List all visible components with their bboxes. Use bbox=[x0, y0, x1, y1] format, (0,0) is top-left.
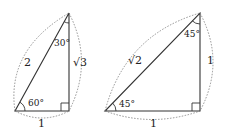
hypotenuse-label: 2 bbox=[24, 56, 31, 69]
height-label: √3 bbox=[73, 56, 87, 69]
base-label: 1 bbox=[38, 117, 45, 130]
angle-top-label: 45° bbox=[184, 29, 200, 39]
height-label: 1 bbox=[207, 54, 214, 67]
hypotenuse-label: √2 bbox=[128, 54, 142, 67]
triangles-diagram: 2 √3 1 60° 30° √2 1 1 45° 45° bbox=[0, 0, 225, 134]
angle-top-label: 30° bbox=[54, 38, 70, 48]
base-label: 1 bbox=[150, 117, 157, 130]
triangle-30-60-90: 2 √3 1 60° 30° bbox=[14, 13, 87, 130]
angle-bottom-label: 45° bbox=[119, 99, 135, 109]
angle-bottom-label: 60° bbox=[28, 98, 44, 108]
triangle-45-45-90: √2 1 1 45° 45° bbox=[105, 13, 214, 130]
